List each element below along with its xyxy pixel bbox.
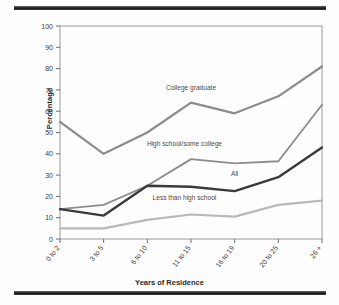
x-axis-tick-label-group: 11 to 15 — [171, 244, 192, 268]
line-chart-svg: 01020304050607080901000 to 23 to 56 to 1… — [0, 14, 339, 289]
y-axis-tick-label: 40 — [45, 150, 53, 157]
x-axis-tick-label-group: 6 to 10 — [129, 244, 148, 265]
top-horizontal-rule — [14, 6, 326, 10]
series-label-0: College graduate — [166, 84, 217, 92]
x-axis-tick-label: 20 to 25 — [258, 244, 279, 268]
x-axis-tick-label-group: 0 to 2 — [44, 244, 60, 262]
series-label-2: All — [231, 170, 239, 177]
x-axis-tick-label-group: 20 to 25 — [258, 244, 279, 268]
x-axis-tick-label: 16 to 19 — [214, 244, 235, 268]
x-axis-tick-label-group: 3 to 5 — [88, 244, 104, 262]
y-axis-tick-label: 80 — [45, 65, 53, 72]
x-axis-tick-label: 3 to 5 — [88, 244, 104, 262]
x-axis-title: Years of Residence — [0, 278, 339, 287]
y-axis-tick-label: 20 — [45, 193, 53, 200]
y-axis-title: Percentage — [45, 74, 54, 144]
y-axis-tick-label: 10 — [45, 214, 53, 221]
y-axis-tick-label: 90 — [45, 44, 53, 51]
x-axis-tick-label: 6 to 10 — [129, 244, 148, 265]
y-axis-tick-label: 30 — [45, 172, 53, 179]
figure-container: 01020304050607080901000 to 23 to 56 to 1… — [0, 0, 339, 305]
y-axis-tick-label: 0 — [49, 236, 53, 243]
series-label-1: High school/some college — [147, 140, 222, 148]
chart-plot-area: 01020304050607080901000 to 23 to 56 to 1… — [0, 14, 339, 289]
x-axis-tick-label-group: 16 to 19 — [214, 244, 235, 268]
x-axis-tick-label: 11 to 15 — [171, 244, 192, 268]
x-axis-tick-label: 26 + — [309, 244, 323, 259]
bottom-horizontal-rule — [14, 291, 326, 295]
plot-frame — [60, 26, 322, 239]
series-label-3: Less than high school — [153, 194, 217, 202]
x-axis-tick-label-group: 26 + — [309, 244, 323, 259]
y-axis-tick-label: 100 — [41, 23, 53, 30]
x-axis-tick-label: 0 to 2 — [44, 244, 60, 262]
